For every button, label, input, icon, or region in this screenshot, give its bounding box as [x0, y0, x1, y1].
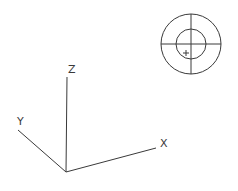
ucs-viewport: Z Y X: [0, 0, 238, 191]
axis-tripod: Z Y X: [16, 63, 168, 172]
y-axis-label: Y: [16, 115, 24, 128]
z-axis-line: [66, 77, 67, 172]
x-axis-line: [66, 148, 156, 172]
compass-tripod-widget[interactable]: [161, 14, 221, 74]
x-axis-label: X: [160, 137, 168, 150]
y-axis-line: [18, 130, 66, 172]
z-axis-label: Z: [68, 63, 76, 76]
